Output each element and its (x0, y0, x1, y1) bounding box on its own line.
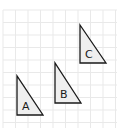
triangle-a-label: A (22, 100, 30, 113)
triangle-b-shape (55, 63, 81, 103)
triangle-a: A (17, 76, 43, 115)
triangle-b-label: B (60, 88, 68, 101)
triangle-c: C (80, 25, 106, 63)
triangle-c-label: C (85, 48, 93, 61)
triangle-a-shape (17, 76, 43, 115)
triangle-b: B (55, 63, 81, 103)
triangle-diagram: A B C (0, 0, 119, 129)
triangle-c-shape (80, 25, 106, 63)
